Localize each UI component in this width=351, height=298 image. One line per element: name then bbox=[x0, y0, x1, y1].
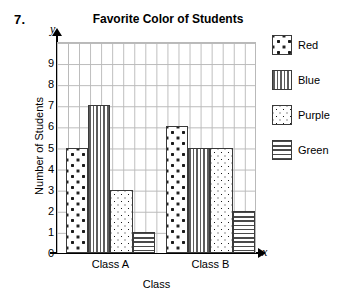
y-axis-tick-8: 8 bbox=[34, 79, 54, 90]
bar-green-class-a bbox=[133, 232, 155, 253]
legend-label: Green bbox=[298, 144, 329, 156]
y-axis-tick-3: 3 bbox=[34, 185, 54, 196]
legend-item-blue: Blue bbox=[272, 68, 350, 91]
x-axis-arrow-icon bbox=[258, 248, 266, 258]
bar-red-class-a bbox=[66, 148, 88, 254]
bar-blue-class-a bbox=[88, 105, 110, 253]
legend-label: Purple bbox=[298, 109, 330, 121]
legend-item-purple: Purple bbox=[272, 103, 350, 126]
legend-item-green: Green bbox=[272, 138, 350, 161]
bar-blue-class-b bbox=[188, 148, 210, 254]
x-axis-category-label: Class A bbox=[70, 258, 150, 270]
x-axis-title: Class bbox=[57, 278, 256, 290]
legend-swatch-green-icon bbox=[272, 140, 292, 160]
y-axis-tick-7: 7 bbox=[34, 100, 54, 111]
bar-purple-class-b bbox=[210, 148, 232, 254]
legend-label: Blue bbox=[298, 74, 320, 86]
y-axis-tick-6: 6 bbox=[34, 121, 54, 132]
x-axis-category-label: Class B bbox=[170, 258, 250, 270]
legend-swatch-red-icon bbox=[272, 35, 292, 55]
legend-item-red: Red bbox=[272, 33, 350, 56]
legend-label: Red bbox=[298, 39, 318, 51]
plot-area bbox=[57, 42, 256, 253]
y-axis-tick-4: 4 bbox=[34, 164, 54, 175]
bar-red-class-b bbox=[166, 126, 188, 253]
legend-swatch-purple-icon bbox=[272, 105, 292, 125]
y-axis-arrow-icon bbox=[52, 28, 62, 36]
y-axis-tick-2: 2 bbox=[34, 206, 54, 217]
bar-purple-class-a bbox=[110, 190, 132, 253]
legend-swatch-blue-icon bbox=[272, 70, 292, 90]
y-axis-tick-9: 9 bbox=[34, 58, 54, 69]
bar-green-class-b bbox=[233, 211, 255, 253]
problem-number: 7. bbox=[14, 12, 25, 27]
legend: RedBluePurpleGreen bbox=[272, 33, 350, 173]
chart-title: Favorite Color of Students bbox=[78, 12, 258, 26]
y-axis-tick-5: 5 bbox=[34, 143, 54, 154]
y-axis-tick-1: 1 bbox=[34, 227, 54, 238]
